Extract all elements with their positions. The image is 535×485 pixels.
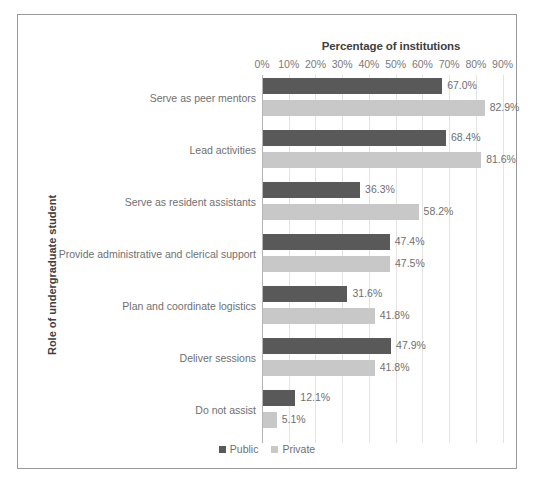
bar-value-label: 81.6% (486, 153, 516, 165)
bar-private[interactable] (263, 360, 375, 376)
chart-legend: PublicPrivate (17, 443, 517, 455)
chart-title: Percentage of institutions (246, 40, 535, 52)
bar-row: 47.4% (263, 234, 517, 250)
bar-value-label: 47.9% (396, 339, 426, 351)
bar-value-label: 58.2% (424, 205, 454, 217)
x-axis-tick-labels: 0%10%20%30%40%50%60%70%80%90% (245, 58, 535, 72)
bar-row: 47.5% (263, 256, 517, 272)
category-label: Do not assist (56, 404, 256, 416)
bar-group: 47.9%41.8% (263, 338, 517, 384)
bar-value-label: 41.8% (380, 309, 410, 321)
bar-row: 68.4% (263, 130, 517, 146)
bar-value-label: 5.1% (282, 413, 306, 425)
bar-value-label: 12.1% (300, 391, 330, 403)
legend-item-private[interactable]: Private (271, 443, 315, 455)
bar-value-label: 67.0% (447, 79, 477, 91)
bar-private[interactable] (263, 256, 390, 272)
bar-value-label: 41.8% (380, 361, 410, 373)
bar-value-label: 47.5% (395, 257, 425, 269)
bar-row: 31.6% (263, 286, 517, 302)
bar-row: 47.9% (263, 338, 517, 354)
bar-public[interactable] (263, 234, 390, 250)
bar-public[interactable] (263, 130, 446, 146)
bar-group: 31.6%41.8% (263, 286, 517, 332)
bar-group: 67.0%82.9% (263, 78, 517, 124)
bar-row: 41.8% (263, 308, 517, 324)
bar-row: 36.3% (263, 182, 517, 198)
bar-public[interactable] (263, 286, 347, 302)
chart-frame: Percentage of institutions 0%10%20%30%40… (17, 14, 517, 469)
bar-private[interactable] (263, 308, 375, 324)
bar-value-label: 47.4% (395, 235, 425, 247)
legend-label: Private (282, 443, 315, 455)
bar-value-label: 82.9% (490, 101, 520, 113)
bar-row: 58.2% (263, 204, 517, 220)
category-axis-labels: Serve as peer mentorsLead activitiesServ… (56, 75, 256, 443)
bar-private[interactable] (263, 204, 419, 220)
category-label: Serve as peer mentors (56, 92, 256, 104)
bar-row: 82.9% (263, 100, 517, 116)
bar-value-label: 36.3% (365, 183, 395, 195)
bar-value-label: 31.6% (352, 287, 382, 299)
bar-group: 68.4%81.6% (263, 130, 517, 176)
bar-row: 5.1% (263, 412, 517, 428)
x-axis-tick-90: 90% (483, 58, 523, 70)
bar-private[interactable] (263, 152, 481, 168)
bar-public[interactable] (263, 338, 391, 354)
bar-group: 47.4%47.5% (263, 234, 517, 280)
bar-group: 12.1%5.1% (263, 390, 517, 436)
bar-private[interactable] (263, 100, 485, 116)
bar-row: 41.8% (263, 360, 517, 376)
bar-public[interactable] (263, 390, 295, 406)
bar-row: 12.1% (263, 390, 517, 406)
bar-row: 81.6% (263, 152, 517, 168)
bar-public[interactable] (263, 182, 360, 198)
category-label: Lead activities (56, 144, 256, 156)
legend-item-public[interactable]: Public (219, 443, 259, 455)
legend-label: Public (230, 443, 259, 455)
category-label: Serve as resident assistants (56, 196, 256, 208)
bar-group: 36.3%58.2% (263, 182, 517, 228)
bar-value-label: 68.4% (451, 131, 481, 143)
y-axis-title-text: Role of undergraduate student (46, 195, 58, 355)
bar-private[interactable] (263, 412, 277, 428)
category-label: Deliver sessions (56, 352, 256, 364)
y-axis-title: Role of undergraduate student (44, 165, 60, 385)
plot-area: 67.0%82.9%68.4%81.6%36.3%58.2%47.4%47.5%… (262, 75, 516, 443)
legend-swatch-icon (219, 446, 226, 453)
category-label: Provide administrative and clerical supp… (56, 248, 256, 260)
bar-public[interactable] (263, 78, 442, 94)
category-label: Plan and coordinate logistics (56, 300, 256, 312)
legend-swatch-icon (271, 446, 278, 453)
bar-row: 67.0% (263, 78, 517, 94)
